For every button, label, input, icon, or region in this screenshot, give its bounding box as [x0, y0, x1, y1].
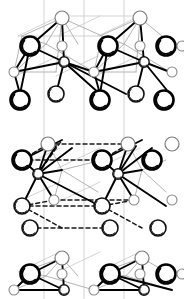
atom-circle — [155, 91, 174, 110]
atom-medium-dark — [102, 220, 118, 236]
atom-circle — [41, 137, 55, 151]
atom-medium-light — [121, 137, 135, 151]
atom-small-light — [177, 41, 184, 51]
atom-circle — [157, 265, 176, 284]
atom-circle — [91, 91, 110, 110]
atom-circle — [21, 265, 40, 284]
atom-large-bold — [21, 37, 40, 56]
crystal-structure-figure — [0, 0, 184, 299]
atom-circle — [143, 151, 162, 170]
atom-circle — [133, 11, 147, 25]
atom-medium-light — [55, 251, 69, 265]
atom-small-light — [9, 285, 19, 295]
atom-circle — [139, 57, 149, 67]
atom-circle — [48, 86, 64, 102]
atom-medium-dark — [94, 198, 110, 214]
atom-medium-light — [135, 251, 149, 265]
atom-medium-dark — [128, 86, 144, 102]
atom-circle — [101, 265, 120, 284]
atom-large-bold — [91, 91, 110, 110]
atom-circle — [113, 169, 123, 179]
atom-circle — [11, 91, 30, 110]
atom-circle — [22, 220, 38, 236]
atom-circle — [57, 41, 67, 51]
atom-circle — [135, 251, 149, 265]
atom-circle — [135, 41, 145, 51]
atom-small-dark — [59, 57, 69, 67]
atom-medium-light — [165, 137, 179, 151]
structure-canvas — [0, 0, 184, 299]
atom-small-dark — [139, 57, 149, 67]
atom-circle — [177, 269, 184, 279]
atom-large-bold — [11, 91, 30, 110]
atom-circle — [13, 151, 32, 170]
atom-circle — [157, 37, 176, 56]
atom-circle — [33, 169, 43, 179]
atom-circle — [139, 285, 149, 295]
atom-small-light — [129, 195, 139, 205]
atom-circle — [129, 195, 139, 205]
atom-large-bold — [157, 37, 176, 56]
atom-small-dark — [33, 169, 43, 179]
atom-circle — [150, 220, 166, 236]
atom-small-light — [9, 67, 19, 77]
atom-large-bold — [143, 151, 162, 170]
atom-circle — [14, 198, 30, 214]
atom-medium-light — [133, 11, 147, 25]
atom-small-light — [57, 41, 67, 51]
atom-large-bold — [99, 37, 118, 56]
atom-large-bold — [155, 91, 174, 110]
atom-circle — [167, 195, 177, 205]
atom-large-bold — [157, 265, 176, 284]
atom-large-bold — [13, 151, 32, 170]
atom-small-dark — [113, 169, 123, 179]
atom-small-light — [135, 41, 145, 51]
atom-circle — [59, 57, 69, 67]
atom-circle — [135, 269, 145, 279]
atom-circle — [89, 67, 99, 77]
atom-circle — [121, 137, 135, 151]
atom-circle — [177, 41, 184, 51]
atom-small-light — [167, 67, 177, 77]
atom-large-bold — [21, 265, 40, 284]
atom-small-light — [135, 269, 145, 279]
atom-circle — [9, 285, 19, 295]
atom-circle — [93, 151, 112, 170]
atom-circle — [102, 220, 118, 236]
atom-small-dark — [59, 285, 69, 295]
atom-medium-light — [41, 137, 55, 151]
atom-medium-dark — [150, 220, 166, 236]
atom-circle — [94, 198, 110, 214]
atom-circle — [55, 251, 69, 265]
atom-circle — [89, 285, 99, 295]
atom-small-light — [89, 67, 99, 77]
atom-small-light — [57, 269, 67, 279]
atom-large-bold — [101, 265, 120, 284]
atom-medium-dark — [22, 220, 38, 236]
atom-circle — [49, 195, 59, 205]
atom-circle — [59, 285, 69, 295]
atom-small-light — [167, 195, 177, 205]
atom-medium-light — [55, 11, 69, 25]
atom-medium-dark — [14, 198, 30, 214]
atom-circle — [9, 67, 19, 77]
atom-circle — [128, 86, 144, 102]
atom-circle — [99, 37, 118, 56]
atom-circle — [167, 67, 177, 77]
atom-circle — [165, 137, 179, 151]
atom-medium-dark — [48, 86, 64, 102]
atom-small-dark — [139, 285, 149, 295]
atom-small-light — [49, 195, 59, 205]
atom-circle — [55, 11, 69, 25]
atom-circle — [21, 37, 40, 56]
atom-small-light — [89, 285, 99, 295]
atom-circle — [57, 269, 67, 279]
atom-small-light — [177, 269, 184, 279]
atom-large-bold — [93, 151, 112, 170]
